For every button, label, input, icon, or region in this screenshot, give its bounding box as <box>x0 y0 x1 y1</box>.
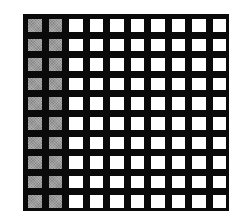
unshaded-cell <box>69 39 83 52</box>
unshaded-cell <box>213 58 227 71</box>
unshaded-cell <box>172 156 186 169</box>
unshaded-cell <box>172 176 186 189</box>
shaded-cell <box>28 176 42 189</box>
unshaded-cell <box>69 117 83 130</box>
unshaded-cell <box>90 39 104 52</box>
unshaded-cell <box>213 137 227 150</box>
unshaded-cell <box>172 19 186 32</box>
unshaded-cell <box>151 39 165 52</box>
unshaded-cell <box>90 117 104 130</box>
unshaded-cell <box>151 195 165 208</box>
unshaded-cell <box>172 137 186 150</box>
shaded-cell <box>28 39 42 52</box>
unshaded-cell <box>131 117 145 130</box>
unshaded-cell <box>151 19 165 32</box>
shaded-cell <box>49 195 63 208</box>
unshaded-cell <box>213 195 227 208</box>
unshaded-cell <box>90 19 104 32</box>
unshaded-cell <box>213 39 227 52</box>
shaded-cell <box>49 19 63 32</box>
unshaded-cell <box>90 137 104 150</box>
hundred-grid <box>23 14 229 211</box>
unshaded-cell <box>192 19 206 32</box>
unshaded-cell <box>131 195 145 208</box>
unshaded-cell <box>69 19 83 32</box>
unshaded-cell <box>90 97 104 110</box>
unshaded-cell <box>110 117 124 130</box>
shaded-cell <box>28 195 42 208</box>
unshaded-cell <box>69 137 83 150</box>
unshaded-cell <box>110 156 124 169</box>
shaded-cell <box>49 156 63 169</box>
unshaded-cell <box>110 19 124 32</box>
unshaded-cell <box>192 117 206 130</box>
unshaded-cell <box>151 117 165 130</box>
unshaded-cell <box>213 19 227 32</box>
unshaded-cell <box>213 117 227 130</box>
unshaded-cell <box>69 176 83 189</box>
unshaded-cell <box>131 58 145 71</box>
unshaded-cell <box>110 78 124 91</box>
shaded-cell <box>49 58 63 71</box>
unshaded-cell <box>172 97 186 110</box>
unshaded-cell <box>151 58 165 71</box>
unshaded-cell <box>69 97 83 110</box>
unshaded-cell <box>151 97 165 110</box>
shaded-cell <box>28 19 42 32</box>
unshaded-cell <box>192 176 206 189</box>
shaded-cell <box>28 97 42 110</box>
unshaded-cell <box>69 195 83 208</box>
shaded-cell <box>49 78 63 91</box>
unshaded-cell <box>151 137 165 150</box>
unshaded-cell <box>131 78 145 91</box>
shaded-cell <box>49 137 63 150</box>
unshaded-cell <box>151 176 165 189</box>
unshaded-cell <box>131 19 145 32</box>
unshaded-cell <box>192 195 206 208</box>
unshaded-cell <box>110 176 124 189</box>
shaded-cell <box>49 39 63 52</box>
unshaded-cell <box>90 176 104 189</box>
unshaded-cell <box>172 78 186 91</box>
unshaded-cell <box>110 195 124 208</box>
unshaded-cell <box>213 97 227 110</box>
unshaded-cell <box>213 176 227 189</box>
unshaded-cell <box>90 156 104 169</box>
shaded-cell <box>28 137 42 150</box>
unshaded-cell <box>110 137 124 150</box>
unshaded-cell <box>131 137 145 150</box>
unshaded-cell <box>151 156 165 169</box>
unshaded-cell <box>172 117 186 130</box>
unshaded-cell <box>69 58 83 71</box>
shaded-cell <box>49 97 63 110</box>
unshaded-cell <box>172 195 186 208</box>
unshaded-cell <box>110 97 124 110</box>
unshaded-cell <box>192 58 206 71</box>
unshaded-cell <box>192 39 206 52</box>
unshaded-cell <box>192 156 206 169</box>
unshaded-cell <box>90 78 104 91</box>
shaded-cell <box>49 117 63 130</box>
diagram-canvas: 20 100 <box>0 0 240 221</box>
shaded-cell <box>28 117 42 130</box>
unshaded-cell <box>90 58 104 71</box>
unshaded-cell <box>131 97 145 110</box>
unshaded-cell <box>213 156 227 169</box>
unshaded-cell <box>172 39 186 52</box>
shaded-cell <box>28 78 42 91</box>
unshaded-cell <box>192 137 206 150</box>
unshaded-cell <box>192 97 206 110</box>
unshaded-cell <box>69 78 83 91</box>
unshaded-cell <box>131 176 145 189</box>
unshaded-cell <box>192 78 206 91</box>
shaded-cell <box>49 176 63 189</box>
unshaded-cell <box>90 195 104 208</box>
unshaded-cell <box>110 58 124 71</box>
shaded-cell <box>28 156 42 169</box>
unshaded-cell <box>213 78 227 91</box>
unshaded-cell <box>131 39 145 52</box>
unshaded-cell <box>172 58 186 71</box>
shaded-cell <box>28 58 42 71</box>
unshaded-cell <box>151 78 165 91</box>
unshaded-cell <box>131 156 145 169</box>
